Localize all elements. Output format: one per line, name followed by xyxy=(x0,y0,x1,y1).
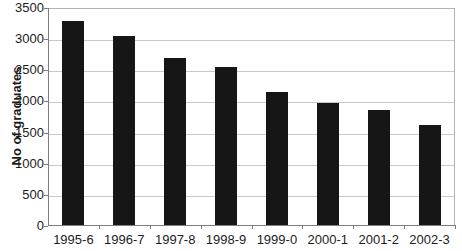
bar xyxy=(266,92,288,226)
x-tick-mark xyxy=(150,225,151,229)
gridline xyxy=(48,165,454,166)
gridline xyxy=(48,71,454,72)
bar xyxy=(419,125,441,227)
plot-area xyxy=(48,8,455,226)
y-tick-mark xyxy=(44,133,48,134)
y-axis-line xyxy=(48,8,49,226)
bar-chart-figure: No of graduates 1995-61996-71997-81998-9… xyxy=(0,0,462,251)
y-tick-mark xyxy=(44,164,48,165)
y-tick-mark xyxy=(44,70,48,71)
y-tick-mark xyxy=(44,39,48,40)
gridline xyxy=(48,134,454,135)
y-tick-label: 2000 xyxy=(0,94,44,108)
bar xyxy=(368,110,390,226)
bar xyxy=(164,58,186,226)
y-tick-label: 3000 xyxy=(0,32,44,46)
x-tick-mark xyxy=(99,225,100,229)
bar xyxy=(62,21,84,227)
bar xyxy=(317,103,339,226)
y-axis-title: No of graduates xyxy=(9,67,24,166)
x-tick-mark xyxy=(302,225,303,229)
x-tick-mark xyxy=(455,225,456,229)
bar xyxy=(215,67,237,226)
y-tick-label: 500 xyxy=(0,188,44,202)
y-tick-label: 3500 xyxy=(0,1,44,15)
x-tick-mark xyxy=(201,225,202,229)
y-tick-mark xyxy=(44,226,48,227)
y-tick-label: 1000 xyxy=(0,157,44,171)
y-tick-label: 2500 xyxy=(0,63,44,77)
y-tick-mark xyxy=(44,8,48,9)
x-tick-mark xyxy=(404,225,405,229)
y-tick-mark xyxy=(44,101,48,102)
y-tick-mark xyxy=(44,195,48,196)
gridline xyxy=(48,102,454,103)
gridline xyxy=(48,40,454,41)
x-tick-mark xyxy=(252,225,253,229)
y-tick-label: 0 xyxy=(0,219,44,233)
x-tick-mark xyxy=(353,225,354,229)
x-tick-label: 2002-3 xyxy=(400,232,460,247)
gridline xyxy=(48,196,454,197)
y-tick-label: 1500 xyxy=(0,126,44,140)
bar xyxy=(113,36,135,226)
